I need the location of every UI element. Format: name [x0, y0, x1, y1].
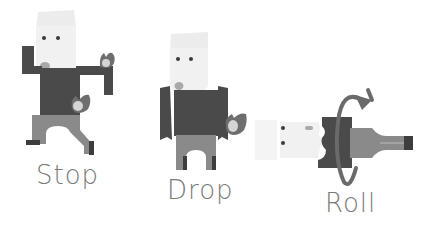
drop-shoe-left	[183, 156, 187, 170]
step-label-stop: Stop	[36, 160, 99, 190]
drop-right-arm	[218, 86, 228, 140]
roll-shoes	[404, 136, 413, 150]
roll-eye-bottom	[281, 141, 285, 145]
drop-figure	[160, 32, 247, 170]
stop-shoe-right	[89, 141, 94, 155]
stop-eye-left	[42, 36, 46, 40]
flame-icon	[226, 114, 247, 136]
roll-hair-trail	[255, 120, 277, 160]
drop-head	[170, 48, 208, 96]
roll-head	[280, 122, 323, 158]
drop-eye-left	[176, 57, 180, 61]
stop-drop-roll-illustration: Stop Drop Roll	[0, 0, 438, 228]
drop-pants	[176, 135, 216, 170]
stop-figure	[22, 10, 115, 155]
roll-mouth	[305, 126, 313, 130]
stop-eye-right	[56, 36, 60, 40]
stop-pants	[32, 115, 94, 154]
drop-eye-right	[189, 57, 193, 61]
roll-figure	[255, 90, 413, 184]
drop-shoe-right	[212, 156, 216, 170]
drop-shirt	[174, 90, 218, 136]
drop-mouth	[175, 82, 184, 90]
roll-eye-top	[281, 126, 285, 130]
flame-icon	[100, 53, 115, 68]
stop-shoe-left	[26, 140, 40, 145]
drop-left-arm	[160, 86, 172, 140]
step-label-roll: Roll	[325, 188, 376, 218]
flame-icon	[72, 95, 91, 113]
step-label-drop: Drop	[167, 175, 234, 205]
